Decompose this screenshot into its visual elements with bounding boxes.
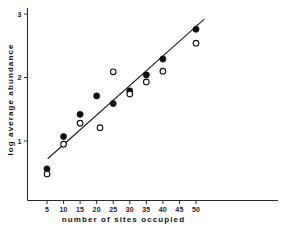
x-tick-label: 5 [45, 206, 49, 213]
x-tick-label: 30 [126, 206, 134, 213]
data-point-filled [77, 111, 83, 117]
data-point-open [97, 125, 103, 131]
regression-line [48, 19, 205, 159]
x-tick-label: 20 [93, 206, 101, 213]
data-point-open [110, 69, 116, 75]
x-axis-title: number of sites occupied [62, 215, 185, 224]
data-point-filled [193, 26, 199, 32]
data-point-filled [160, 56, 166, 62]
data-point-open [44, 171, 50, 177]
data-point-open [61, 141, 67, 147]
chart-canvas: 5101520253035404550123number of sites oc… [0, 0, 285, 227]
x-tick-label: 25 [109, 206, 117, 213]
x-tick-label: 40 [159, 206, 167, 213]
data-point-open [193, 40, 199, 46]
data-point-open [160, 68, 166, 74]
data-point-filled [110, 100, 116, 106]
data-point-open [77, 120, 83, 126]
data-point-filled [143, 72, 149, 78]
y-tick-label: 2 [17, 74, 21, 81]
x-tick-label: 35 [142, 206, 150, 213]
data-point-open [144, 79, 150, 85]
y-tick-label: 3 [17, 11, 21, 18]
x-tick-label: 50 [192, 206, 200, 213]
x-tick-label: 10 [59, 206, 67, 213]
x-tick-label: 15 [76, 206, 84, 213]
y-axis-title: log average abundance [6, 43, 15, 155]
scatter-plot-figure: 5101520253035404550123number of sites oc… [0, 0, 285, 227]
data-point-filled [94, 93, 100, 99]
x-tick-label: 45 [175, 206, 183, 213]
data-point-filled [60, 133, 66, 139]
data-point-open [127, 91, 133, 97]
y-tick-label: 1 [17, 138, 21, 145]
